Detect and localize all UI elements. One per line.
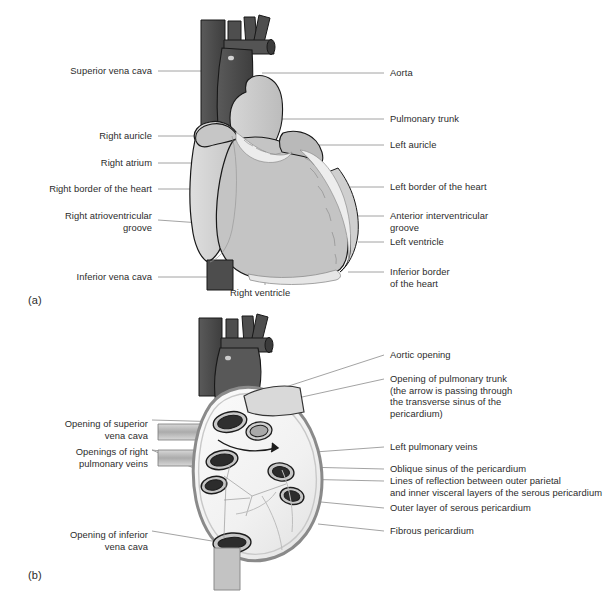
label-openings-of-right-pulmonary-veins: Openings of right pulmonary veins [0,446,148,469]
label-aortic-opening: Aortic opening [390,349,608,361]
label-oblique-sinus-of-the-pericardium: Oblique sinus of the pericardium [390,463,608,475]
panel-a-caption: (a) [28,294,42,306]
label-right-ventricle: Right ventricle [230,287,350,299]
label-left-auricle: Left auricle [390,139,605,151]
label-opening-of-pulmonary-trunk: Opening of pulmonary trunk (the arrow is… [390,373,608,419]
inferior-vena-cava-stump-shape [214,548,240,590]
label-inferior-vena-cava: Inferior vena cava [0,271,152,283]
label-superior-vena-cava: Superior vena cava [0,65,152,77]
label-right-atrioventricular-groove: Right atrioventricular groove [0,210,152,233]
label-fibrous-pericardium: Fibrous pericardium [390,525,608,537]
label-left-pulmonary-veins: Left pulmonary veins [390,441,608,453]
label-left-ventricle: Left ventricle [390,236,605,248]
panel-a-illustration [0,0,610,310]
inferior-vena-cava-shape [207,260,233,290]
label-left-border-of-the-heart: Left border of the heart [390,181,605,193]
label-opening-of-superior-vena-cava: Opening of superior vena cava [0,418,148,441]
label-aorta: Aorta [390,67,605,79]
label-anterior-interventricular-groove: Anterior interventricular groove [390,210,605,233]
label-right-border-of-the-heart: Right border of the heart [0,183,152,195]
label-right-atrium: Right atrium [0,157,152,169]
panel-b-caption: (b) [28,569,42,581]
label-lines-of-reflection: Lines of reflection between outer pariet… [390,475,610,498]
figure-stage: Superior vena cava Right auricle Right a… [0,0,610,599]
label-pulmonary-trunk: Pulmonary trunk [390,113,605,125]
label-inferior-border-of-the-heart: Inferior border of the heart [390,266,605,289]
label-right-auricle: Right auricle [0,130,152,142]
label-outer-layer-of-serous-pericardium: Outer layer of serous pericardium [390,502,608,514]
label-opening-of-inferior-vena-cava: Opening of inferior vena cava [0,529,148,552]
